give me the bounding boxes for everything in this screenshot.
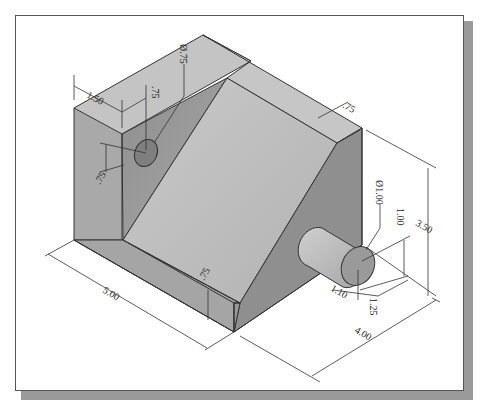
dim-boss-height: 1.00	[395, 208, 406, 226]
dim-boss-diameter: Ø1.00	[374, 180, 385, 205]
dim-hole-diameter: Ø.75	[178, 44, 189, 64]
isometric-part-drawing: 1.50 .75 Ø.75 .75 .75 3.50 Ø1.00 1.00 1.…	[0, 0, 488, 410]
dim-overall-height: 3.50	[414, 217, 435, 235]
dim-boss-offset: 1.25	[368, 298, 379, 316]
part-body	[74, 35, 362, 332]
dim-overall-length: 5.00	[101, 284, 122, 302]
dim-right-wall: .75	[341, 99, 357, 115]
dim-hole-offset-x: .75	[150, 86, 161, 99]
